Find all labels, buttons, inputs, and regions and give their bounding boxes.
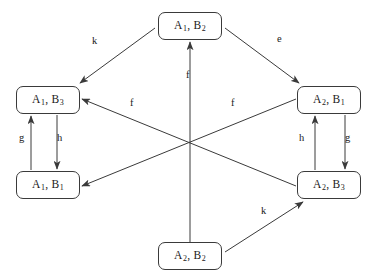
node-a2-b2[interactable]: A2, B2 [158,242,222,270]
node-a1-b1-label: A1, B1 [32,179,64,191]
edge-g-a1b1-to-a1b3-label: g [19,133,24,144]
edge-lines [31,28,345,252]
edge-f-a2b1-to-a1b1-label: f [231,98,235,109]
edge-h-a2b3-to-a2b1-label: h [299,133,304,144]
node-a1-b2-label: A1, B2 [174,20,206,32]
node-a1-b3[interactable]: A1, B3 [16,86,80,114]
node-a1-b1[interactable]: A1, B1 [16,171,80,199]
node-a1-b2[interactable]: A1, B2 [158,12,222,40]
node-a2-b2-label: A2, B2 [174,250,206,262]
edge-k-a1b2-to-a1b3-label: k [92,36,97,47]
edge-f-a2b3-to-a1b3-label: f [130,98,134,109]
diagram-canvas: A1, B2A1, B3A1, B1A2, B1A2, B3A2, B2 kef… [0,0,377,280]
node-a1-b3-label: A1, B3 [32,94,64,106]
node-a2-b3[interactable]: A2, B3 [297,171,361,199]
edge-h-a1b3-to-a1b1-label: h [57,133,62,144]
edge-f-a2b2-to-a1b2-label: f [186,70,190,81]
node-a2-b1-label: A2, B1 [313,94,345,106]
node-a2-b1[interactable]: A2, B1 [297,86,361,114]
node-a2-b3-label: A2, B3 [313,179,345,191]
edge-g-a2b1-to-a2b3-label: g [345,133,350,144]
edge-e-a1b2-to-a2b1-label: e [277,34,282,45]
edge-e-a1b2-to-a2b1 [225,28,299,83]
edge-k-a2b2-to-a2b3-label: k [261,206,266,217]
